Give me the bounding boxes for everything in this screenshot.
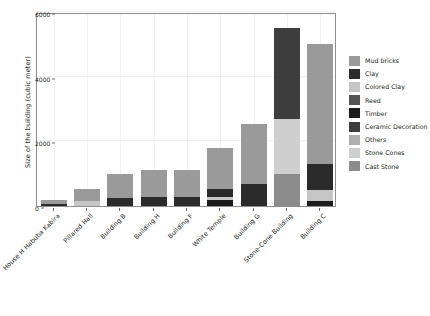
bar-segment <box>41 200 67 204</box>
x-axis-tick-label: Building H <box>132 212 161 241</box>
x-axis-tick-label: Pillared Hall <box>62 212 95 245</box>
bar-segment <box>207 148 233 189</box>
bar-segment <box>107 198 133 206</box>
legend-label: Timber <box>365 110 387 117</box>
x-axis-tick-mark <box>86 208 87 211</box>
bar-stack <box>141 12 167 206</box>
bar-segment <box>74 201 100 206</box>
x-axis-tick-mark <box>253 208 254 211</box>
legend-swatch <box>349 82 360 92</box>
legend-swatch <box>349 122 360 132</box>
legend-swatch <box>349 161 360 171</box>
bar-segment <box>307 190 333 201</box>
y-axis-tick-label: 4000 <box>35 75 52 82</box>
x-axis-tick-mark <box>219 208 220 211</box>
bar-segment <box>174 170 200 197</box>
x-axis-tick-label: White Temple <box>191 212 228 249</box>
legend-label: Reed <box>365 97 381 104</box>
bar-stack <box>41 12 67 206</box>
y-axis-title: Size of the building (cubic meter) <box>24 12 32 212</box>
bar-stack <box>107 12 133 206</box>
legend-item: Stone Cones <box>349 146 428 159</box>
legend-label: Clay <box>365 70 379 77</box>
y-axis-tick-mark <box>52 78 55 79</box>
x-axis-tick-mark <box>119 208 120 211</box>
legend-swatch <box>349 148 360 158</box>
x-axis-tick-label: Building G <box>232 212 261 241</box>
y-axis-tick-mark <box>52 14 55 15</box>
x-axis-tick-label: Building B <box>99 212 128 241</box>
legend-label: Others <box>365 136 386 143</box>
legend-item: Reed <box>349 94 428 107</box>
bar-chart: Size of the building (cubic meter) 02000… <box>0 0 430 316</box>
bar-segment <box>41 204 67 206</box>
legend-item: Ceramic Decoration <box>349 120 428 133</box>
bar-segment <box>207 197 233 200</box>
y-axis-tick-mark <box>52 143 55 144</box>
legend-swatch <box>349 95 360 105</box>
legend-label: Mud bricks <box>365 57 399 64</box>
bar-segment <box>141 170 167 197</box>
x-axis-tick-label: Building F <box>166 212 194 240</box>
bar-segment <box>307 201 333 206</box>
legend-label: Colored Clay <box>365 83 405 90</box>
bar-segment <box>307 44 333 164</box>
x-axis-tick-mark <box>286 208 287 211</box>
bar-segment <box>141 197 167 206</box>
bar-segment <box>274 28 300 119</box>
bar-segment <box>241 184 267 206</box>
bar-stack <box>207 12 233 206</box>
bar-stack <box>241 12 267 206</box>
x-axis-tick-label: Building C <box>299 212 328 241</box>
x-axis-tick-mark <box>319 208 320 211</box>
x-axis-tick-mark <box>153 208 154 211</box>
bar-segment <box>174 197 200 206</box>
legend-swatch <box>349 108 360 118</box>
plot-area <box>36 13 336 207</box>
y-axis-tick-label: 2000 <box>35 140 52 147</box>
legend-item: Timber <box>349 107 428 120</box>
bar-segment <box>207 189 233 196</box>
bar-stack <box>274 12 300 206</box>
x-axis-tick-mark <box>53 208 54 211</box>
legend-item: Clay <box>349 67 428 80</box>
bar-segment <box>74 189 100 202</box>
legend-swatch <box>349 69 360 79</box>
bar-stack <box>74 12 100 206</box>
bar-segment <box>207 200 233 206</box>
legend: Mud bricksClayColored ClayReedTimberCera… <box>349 54 428 173</box>
bar-segment <box>307 164 333 190</box>
x-axis-tick-mark <box>186 208 187 211</box>
x-axis-tick-label: House H Habuba Kabira <box>1 212 61 272</box>
bar-segment <box>274 119 300 174</box>
y-axis-tick-mark <box>41 208 44 209</box>
bar-stack <box>174 12 200 206</box>
y-axis-tick-label: 6000 <box>35 11 52 18</box>
legend-item: Colored Clay <box>349 80 428 93</box>
legend-swatch <box>349 56 360 66</box>
bar-stack <box>307 12 333 206</box>
legend-item: Cast Stone <box>349 160 428 173</box>
bar-segment <box>241 124 267 185</box>
legend-item: Others <box>349 133 428 146</box>
legend-swatch <box>349 135 360 145</box>
bar-segment <box>107 174 133 198</box>
bar-segment <box>274 174 300 206</box>
legend-label: Cast Stone <box>365 163 399 170</box>
legend-label: Stone Cones <box>365 149 405 156</box>
legend-label: Ceramic Decoration <box>365 123 428 130</box>
legend-item: Mud bricks <box>349 54 428 67</box>
